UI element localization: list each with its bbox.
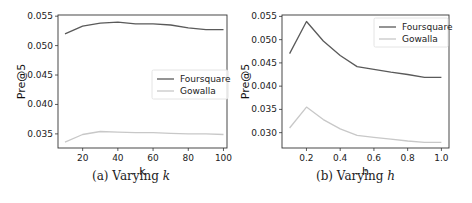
y-tick-label: 0.055 [27,11,53,21]
chart-panel-varying-k: 204060801000.0350.0400.0450.0500.055kPre… [15,11,232,178]
y-tick-label: 0.045 [251,58,277,68]
y-tick-label: 0.035 [27,129,53,139]
figure-canvas: 204060801000.0350.0400.0450.0500.055kPre… [0,0,472,203]
x-tick-label: 0.6 [367,153,382,163]
line-foursquare [65,22,224,34]
legend-label-gowalla: Gowalla [180,86,216,96]
legend: FoursquareGowalla [152,70,231,99]
y-tick-label: 0.055 [251,11,277,21]
x-tick-label: 80 [183,153,195,163]
legend-label-foursquare: Foursquare [180,74,231,84]
line-gowalla [290,107,442,142]
y-tick-label: 0.040 [251,81,277,91]
y-tick-label: 0.035 [251,104,277,114]
x-tick-label: 20 [77,153,89,163]
x-tick-label: 0.4 [333,153,348,163]
x-tick-label: 40 [112,153,124,163]
y-axis-label: Pre@5 [239,64,252,100]
chart-panel-varying-h: 0.20.40.60.81.00.0300.0350.0400.0450.050… [239,11,453,178]
y-tick-label: 0.050 [27,41,53,51]
x-tick-label: 60 [147,153,159,163]
y-tick-label: 0.050 [251,35,277,45]
legend: FoursquareGowalla [374,18,453,47]
legend-label-foursquare: Foursquare [402,22,453,32]
legend-label-gowalla: Gowalla [402,34,438,44]
y-tick-label: 0.030 [251,128,277,138]
x-tick-label: 100 [215,153,232,163]
caption-varying-h: (b) Varying h [316,169,395,183]
y-tick-label: 0.045 [27,70,53,80]
caption-variable: h [387,169,395,183]
x-tick-label: 0.2 [299,153,313,163]
caption-prefix: (a) Varying [92,169,163,183]
caption-varying-k: (a) Varying k [92,169,170,183]
line-gowalla [65,132,224,143]
y-axis-label: Pre@5 [15,64,28,100]
caption-variable: k [163,169,170,183]
caption-prefix: (b) Varying [316,169,387,183]
x-tick-label: 1.0 [434,153,449,163]
y-tick-label: 0.040 [27,99,53,109]
x-tick-label: 0.8 [401,153,416,163]
